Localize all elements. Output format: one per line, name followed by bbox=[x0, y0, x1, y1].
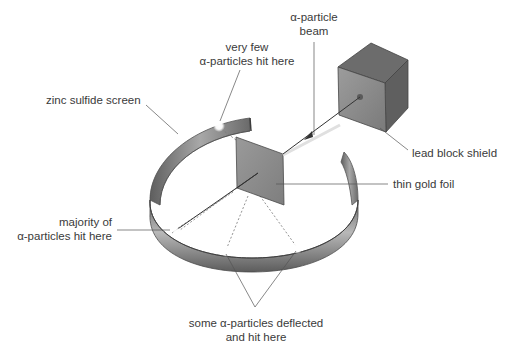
gold-foil bbox=[236, 137, 284, 205]
label-lead-block-shield: lead block shield bbox=[412, 146, 497, 160]
hit-spot-deflected-1 bbox=[220, 245, 232, 257]
label-thin-gold-foil: thin gold foil bbox=[393, 177, 454, 191]
label-deflected: some α-particles deflected and hit here bbox=[176, 316, 336, 344]
hit-spot-few bbox=[213, 120, 225, 132]
lead-block bbox=[338, 43, 408, 132]
label-zinc-sulfide-screen: zinc sulfide screen bbox=[46, 93, 141, 107]
label-majority: majority of α-particles hit here bbox=[4, 215, 112, 243]
hit-spot-deflected-2 bbox=[291, 242, 303, 254]
zinc-sulfide-screen bbox=[150, 118, 358, 272]
alpha-beam-arrow bbox=[283, 97, 360, 155]
label-beam: α-particle beam bbox=[274, 10, 354, 38]
label-very-few: very few α-particles hit here bbox=[182, 40, 312, 68]
hit-spot-majority bbox=[171, 227, 183, 239]
